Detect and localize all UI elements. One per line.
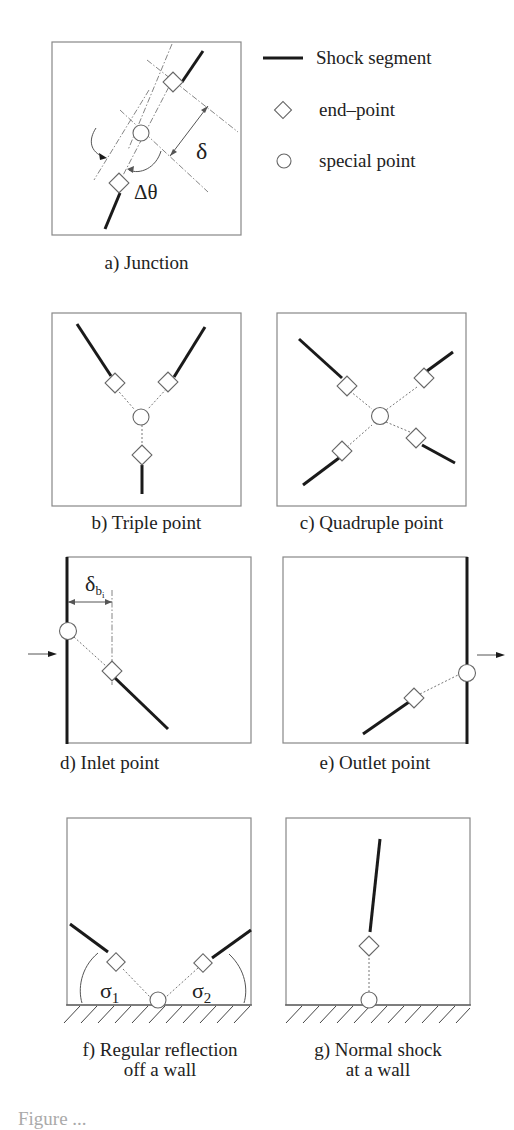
special-point-circle bbox=[150, 992, 166, 1008]
end-point-diamond bbox=[359, 936, 379, 956]
arrow-right-icon bbox=[496, 652, 505, 658]
shock-segment bbox=[303, 458, 339, 485]
legend-label-end-point: end–point bbox=[319, 100, 395, 120]
end-point-diamond bbox=[105, 373, 125, 393]
legend-circle-icon bbox=[277, 154, 291, 168]
sigma2-angle-arc bbox=[229, 954, 246, 1003]
rotation-arrow bbox=[91, 128, 104, 157]
panel-g-normal-shock bbox=[285, 818, 471, 1023]
shock-segment bbox=[427, 352, 453, 371]
sigma2-label: σ2 bbox=[192, 978, 211, 1006]
connector-line bbox=[386, 387, 417, 410]
arrowhead-icon bbox=[127, 166, 134, 173]
end-point-diamond bbox=[337, 376, 357, 396]
panel-f-regular-reflection: σ1 σ2 bbox=[64, 818, 252, 1023]
panel-b-frame bbox=[52, 313, 241, 506]
shock-segment bbox=[174, 327, 205, 377]
end-point-diamond bbox=[107, 953, 125, 971]
shock-segment bbox=[115, 678, 168, 729]
special-point-circle bbox=[372, 408, 389, 425]
shock-segment bbox=[299, 339, 342, 378]
construction-line bbox=[147, 60, 238, 132]
caption-f-line1: f) Regular reflection bbox=[55, 1040, 265, 1060]
end-point-diamond bbox=[132, 445, 152, 465]
panel-c-frame bbox=[277, 313, 466, 506]
shock-segment bbox=[70, 924, 108, 952]
panel-c-quadruple-point bbox=[277, 313, 466, 506]
connector-line bbox=[347, 425, 372, 447]
shock-segment bbox=[422, 445, 455, 463]
panel-f-frame bbox=[67, 818, 251, 1005]
shock-segment bbox=[182, 51, 203, 82]
panel-a-junction: δ Δθ bbox=[52, 42, 241, 235]
arrowhead-icon bbox=[105, 599, 112, 605]
end-point-diamond bbox=[332, 441, 352, 461]
arrowhead-icon bbox=[170, 149, 177, 156]
legend-diamond-icon bbox=[275, 102, 292, 119]
caption-e: e) Outlet point bbox=[283, 753, 467, 773]
panel-d-inlet-point: δbi bbox=[28, 557, 251, 744]
caption-a: a) Junction bbox=[52, 253, 241, 273]
connector-line bbox=[386, 422, 410, 432]
end-point-diamond bbox=[194, 954, 212, 972]
legend-label-shock-segment: Shock segment bbox=[316, 48, 432, 68]
end-point-diamond bbox=[109, 173, 129, 193]
special-point-circle bbox=[133, 125, 149, 141]
legend bbox=[263, 58, 303, 168]
special-point-circle bbox=[459, 665, 476, 682]
wall-hatching bbox=[64, 1006, 250, 1023]
connector-line bbox=[123, 969, 150, 997]
connector-line bbox=[420, 674, 460, 694]
caption-f-line2: off a wall bbox=[55, 1060, 265, 1080]
shock-segment bbox=[212, 930, 251, 958]
sigma1-angle-arc bbox=[80, 953, 98, 1003]
shock-segment bbox=[370, 839, 380, 932]
sigma1-label: σ1 bbox=[100, 978, 119, 1006]
arrow-right-icon bbox=[48, 651, 57, 657]
panel-b-triple-point bbox=[52, 313, 241, 506]
figure-caption-cutoff: Figure ... bbox=[18, 1108, 87, 1130]
caption-c: c) Quadruple point bbox=[277, 513, 466, 533]
shock-segment bbox=[105, 193, 120, 229]
special-point-circle bbox=[133, 409, 149, 425]
caption-d: d) Inlet point bbox=[60, 753, 159, 773]
shock-segment bbox=[77, 324, 111, 376]
delta-b-label: δbi bbox=[85, 571, 105, 600]
dtheta-label: Δθ bbox=[134, 180, 158, 204]
end-point-diamond bbox=[102, 661, 122, 681]
legend-label-special-point: special point bbox=[319, 151, 416, 171]
special-point-circle bbox=[361, 992, 377, 1008]
dtheta-arc-arrow bbox=[129, 151, 161, 172]
connector-line bbox=[74, 637, 106, 666]
arrowhead-icon bbox=[68, 599, 75, 605]
panel-e-frame bbox=[283, 557, 467, 743]
delta-label: δ bbox=[196, 138, 207, 164]
shock-segment bbox=[363, 702, 409, 734]
caption-g-line1: g) Normal shock bbox=[280, 1040, 476, 1060]
caption-b: b) Triple point bbox=[52, 513, 241, 533]
end-point-diamond bbox=[414, 368, 434, 388]
arrowhead-icon bbox=[99, 153, 107, 160]
arrowhead-icon bbox=[201, 106, 208, 113]
special-point-circle bbox=[60, 623, 77, 640]
panel-e-outlet-point bbox=[283, 557, 505, 744]
caption-g-line2: at a wall bbox=[280, 1060, 476, 1080]
wall-hatching bbox=[286, 1006, 470, 1023]
connector-line bbox=[350, 391, 372, 409]
